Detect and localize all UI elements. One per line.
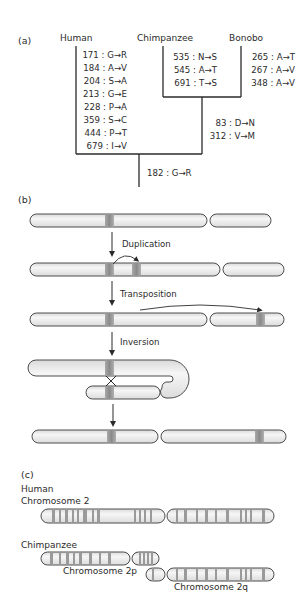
- chromosome-final: [32, 430, 286, 443]
- chromosome-after-transposition: [30, 313, 284, 326]
- mutation: 679 : I→V: [87, 141, 127, 151]
- step-inversion-label: Inversion: [120, 337, 159, 347]
- chimpanzee-chromosome-2p: [41, 552, 159, 565]
- mutation: 444 : P→T: [85, 128, 128, 138]
- panel-b: (b) Duplication Transposition Inversio: [18, 194, 286, 443]
- chimpanzee-mutation-list: 535 : N→S 545 : A→T 691 : T→S: [173, 52, 218, 88]
- panel-a: (a) Human Chimpanzee Bonobo 171 : G→R 18…: [18, 33, 296, 187]
- panel-c: (c) Human Chromosome 2: [21, 469, 274, 592]
- mutation: 348 : A→V: [251, 78, 295, 88]
- mutation: 228 : P→A: [84, 102, 127, 112]
- human-chromosome-2-label: Chromosome 2: [21, 496, 89, 506]
- mutation: 171 : G→R: [82, 50, 127, 60]
- chromosome-original: [30, 214, 271, 227]
- species-human-label: Human: [60, 33, 92, 43]
- crossover-icon: [106, 376, 116, 386]
- species-chimpanzee-label: Chimpanzee: [137, 33, 193, 43]
- chimpanzee-label: Chimpanzee: [21, 540, 77, 550]
- chimpanzee-chromosome-2q: [146, 568, 274, 581]
- mutation: 83 : D→N: [215, 118, 255, 128]
- mutation: 691 : T→S: [174, 78, 217, 88]
- human-label: Human: [21, 484, 53, 494]
- panel-b-label: (b): [18, 194, 31, 205]
- species-bonobo-label: Bonobo: [229, 33, 264, 43]
- bonobo-mutation-list: 265 : A→T 267 : A→V 348 : A→V: [251, 52, 295, 88]
- panel-a-label: (a): [18, 35, 31, 46]
- mutation: 265 : A→T: [252, 52, 296, 62]
- chromosome-after-duplication: [30, 263, 284, 276]
- step-duplication-label: Duplication: [122, 239, 171, 249]
- transposition-arrow-icon: [140, 305, 260, 310]
- mutation: 213 : G→E: [83, 89, 127, 99]
- mutation: 312 : V→M: [210, 131, 255, 141]
- mutation: 267 : A→V: [251, 65, 295, 75]
- chromosome-inversion-loop: [28, 360, 189, 399]
- pan-ancestor-mutation-list: 83 : D→N 312 : V→M: [210, 118, 255, 141]
- panel-c-label: (c): [21, 469, 34, 480]
- mutation: 184 : A→V: [83, 63, 127, 73]
- chromosome-2q-label: Chromosome 2q: [174, 582, 248, 592]
- figure-canvas: (a) Human Chimpanzee Bonobo 171 : G→R 18…: [0, 0, 307, 592]
- mutation: 204 : S→A: [84, 76, 127, 86]
- mutation: 545 : A→T: [174, 65, 218, 75]
- root-mutation: 182 : G→R: [147, 168, 192, 178]
- step-transposition-label: Transposition: [119, 289, 177, 299]
- human-chromosome-2: [41, 509, 274, 523]
- chromosome-2p-label: Chromosome 2p: [63, 566, 137, 576]
- mutation: 535 : N→S: [173, 52, 217, 62]
- human-mutation-list: 171 : G→R 184 : A→V 204 : S→A 213 : G→E …: [82, 50, 127, 151]
- mutation: 359 : S→C: [84, 115, 127, 125]
